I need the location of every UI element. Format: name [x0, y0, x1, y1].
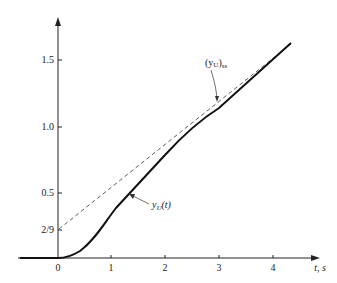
- x-tick-0: 0: [56, 262, 61, 273]
- y-axis-arrow-icon: [55, 17, 61, 26]
- annotation-ss-leader: [211, 70, 217, 98]
- annotation-steady-state: (yU)ss: [205, 57, 227, 70]
- x-tick-2: 2: [163, 262, 168, 273]
- y-tick-0-5: 0.5: [42, 187, 55, 198]
- y-tick-1-0: 1.0: [42, 121, 55, 132]
- y-tick-1-5: 1.5: [42, 54, 55, 65]
- arrowhead-icon: [215, 96, 219, 102]
- y-ticks: 2/9 0.5 1.0 1.5: [41, 54, 62, 235]
- x-tick-4: 4: [271, 262, 276, 273]
- annotation-curve: yU(t): [151, 199, 172, 212]
- response-curve: [20, 43, 291, 258]
- steady-state-line: [59, 44, 291, 229]
- x-axis-label: t, s: [314, 262, 326, 273]
- y-tick-2-9: 2/9: [41, 224, 54, 235]
- x-tick-3: 3: [217, 262, 222, 273]
- x-tick-1: 1: [109, 262, 114, 273]
- chart: 0 1 2 3 4 t, s 2/9 0.5 1.0 1.5 (yU)ss yU…: [0, 0, 337, 283]
- annotation-curve-leader: [133, 196, 149, 204]
- x-axis-arrow-icon: [311, 255, 320, 261]
